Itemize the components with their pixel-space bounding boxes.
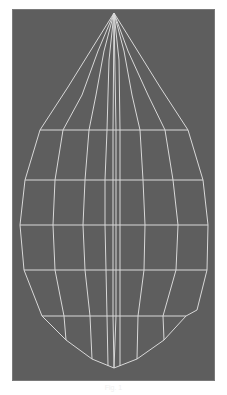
meridian-line — [114, 13, 208, 368]
mesh-rings — [20, 130, 208, 316]
meridian-line — [113, 13, 114, 368]
figure: Fig. 1 — [0, 0, 227, 395]
figure-caption: Fig. 1 — [0, 384, 227, 391]
meridian-line — [20, 13, 114, 368]
meridian-line — [114, 13, 178, 340]
wireframe-mesh — [0, 0, 227, 395]
mesh-meridians — [20, 13, 208, 368]
meridian-line — [114, 13, 116, 368]
